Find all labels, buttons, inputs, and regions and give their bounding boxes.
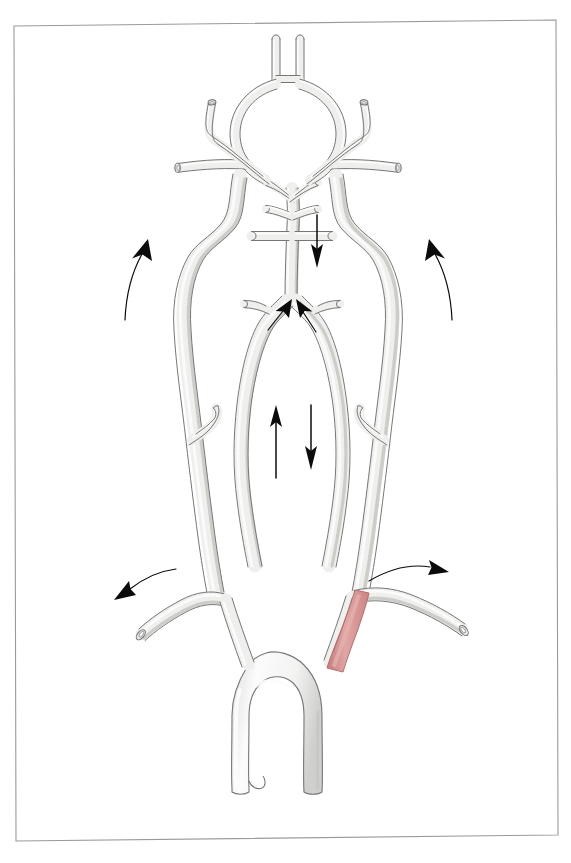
arrow-vertebral-down	[305, 405, 317, 470]
arrow-basilar-down	[311, 215, 323, 268]
subclavian-left	[134, 592, 226, 642]
page-frame	[14, 20, 558, 841]
aortic-arch	[232, 652, 323, 794]
figure-root: Cerebral and aortic arch arterial circul…	[0, 0, 571, 863]
vertebral-arteries	[234, 296, 350, 567]
anterior-cerebral-arteries	[272, 35, 304, 84]
arrow-vertebral-up	[270, 405, 282, 478]
arrow-carotid-right	[425, 239, 452, 320]
arrow-subclavian-left	[114, 569, 176, 600]
subclavian-right	[354, 588, 470, 637]
posterior-inferior-cerebellar-arteries	[251, 232, 333, 241]
arterial-diagram	[0, 0, 571, 863]
carotid-left	[174, 174, 247, 593]
arrow-carotid-left	[125, 239, 152, 320]
arrow-subclavian-right	[369, 560, 449, 581]
